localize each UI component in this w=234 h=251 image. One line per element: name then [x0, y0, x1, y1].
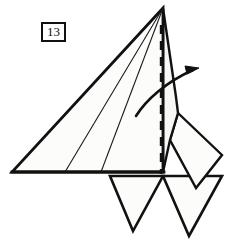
origami-diagram: 13	[0, 0, 234, 251]
origami-figure	[0, 0, 234, 251]
step-number-label: 13	[47, 25, 60, 39]
step-number-badge: 13	[41, 22, 66, 42]
